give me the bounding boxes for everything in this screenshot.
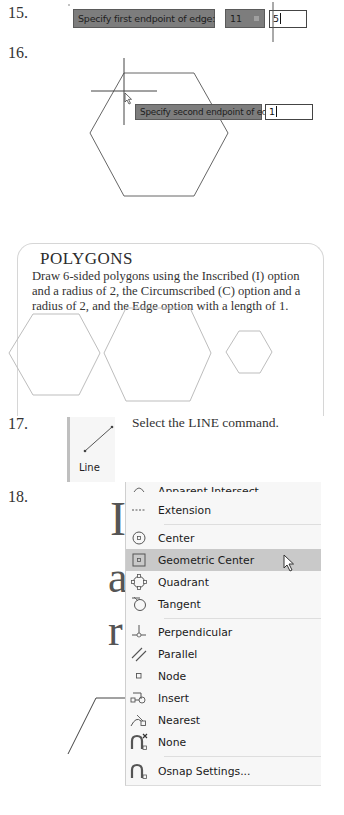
callout-body-line-1: Draw 6-sided polygons using the Inscribe… — [32, 269, 332, 284]
menu-item-label: Center — [158, 532, 194, 545]
apparent-intersect-icon — [132, 482, 146, 492]
menu-item-apparent-intersect[interactable]: Apparent Intersect — [126, 476, 321, 492]
step-number-18: 18. — [8, 488, 28, 506]
menu-item-node[interactable]: Node — [126, 665, 321, 687]
osnap-settings-icon — [130, 762, 148, 780]
menu-separator — [164, 756, 321, 757]
menu-item-perpendicular[interactable]: Perpendicular — [126, 621, 321, 643]
edge-length-value: 1 — [269, 106, 275, 117]
background-letter-r: r — [108, 605, 123, 656]
edge-hexagon-drawing — [0, 50, 344, 220]
menu-item-label: Osnap Settings... — [158, 765, 250, 778]
menu-item-label: Node — [158, 670, 186, 683]
menu-separator — [164, 618, 321, 619]
menu-item-osnap-settings[interactable]: Osnap Settings... — [126, 760, 321, 782]
menu-item-quadrant[interactable]: Quadrant — [126, 571, 321, 593]
menu-item-label: Extension — [158, 504, 211, 517]
menu-item-label: Quadrant — [158, 576, 209, 589]
none-icon — [130, 733, 148, 751]
edge-length-hexagon — [226, 331, 272, 373]
menu-item-label: Geometric Center — [158, 554, 254, 567]
menu-item-geometric-center[interactable]: Geometric Center — [126, 549, 321, 571]
insert-icon — [130, 691, 148, 705]
node-icon — [135, 672, 143, 680]
inscribed-hexagon — [9, 314, 100, 395]
menu-item-label: None — [158, 736, 186, 749]
menu-item-insert[interactable]: Insert — [126, 687, 321, 709]
mouse-pointer-icon — [125, 93, 132, 104]
menu-separator — [164, 524, 321, 525]
menu-item-label: Apparent Intersect — [158, 485, 259, 492]
extension-icon — [131, 507, 147, 513]
mouse-pointer-icon — [283, 554, 297, 572]
perpendicular-icon — [131, 624, 147, 640]
edge-length-input[interactable]: 1 — [265, 104, 313, 120]
parallel-icon — [131, 646, 147, 662]
menu-item-parallel[interactable]: Parallel — [126, 643, 321, 665]
menu-item-label: Insert — [158, 692, 189, 705]
step-17-instruction: Select the LINE command. — [132, 415, 279, 431]
step-number-17: 17. — [8, 415, 28, 433]
menu-item-center[interactable]: Center — [126, 527, 321, 549]
menu-item-label: Parallel — [158, 648, 197, 661]
circumscribed-hexagon — [104, 308, 211, 401]
second-endpoint-prompt: Specify second endpoint of edge: — [135, 104, 262, 120]
nearest-icon — [130, 712, 148, 728]
background-letter-i: I — [110, 491, 126, 546]
line-icon — [76, 421, 114, 459]
center-icon — [132, 531, 146, 545]
polygon-examples — [0, 300, 344, 410]
osnap-context-menu: Apparent Intersect Extension Center Geom… — [125, 482, 321, 786]
menu-item-tangent[interactable]: Tangent — [126, 593, 321, 615]
menu-item-label: Tangent — [158, 598, 201, 611]
geometric-center-icon — [132, 553, 146, 567]
line-button-label: Line — [79, 462, 100, 473]
tangent-icon — [131, 596, 147, 612]
callout-body-line-2: and a radius of 2, the Circumscribed (C)… — [32, 284, 332, 299]
callout-title: POLYGONS — [40, 249, 133, 269]
text-cursor — [276, 106, 277, 117]
menu-item-label: Perpendicular — [158, 626, 232, 639]
menu-item-label: Nearest — [158, 714, 200, 727]
menu-item-extension[interactable]: Extension — [126, 499, 321, 521]
quadrant-icon — [131, 574, 147, 590]
line-ribbon-button[interactable]: Line — [67, 417, 115, 482]
menu-item-nearest[interactable]: Nearest — [126, 709, 321, 731]
menu-item-none[interactable]: None — [126, 731, 321, 753]
